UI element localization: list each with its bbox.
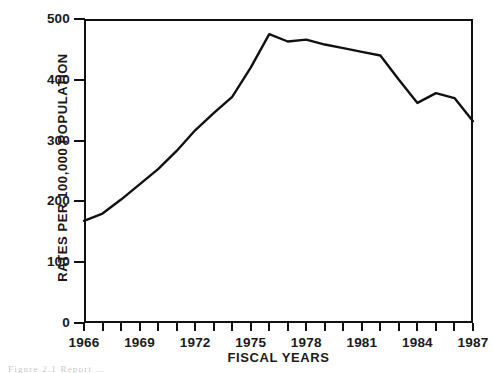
x-axis-tick-label: 1966 [54,336,114,350]
x-axis-tick [287,323,289,331]
x-axis-tick [157,323,159,331]
x-axis-tick [268,323,270,331]
x-axis-tick [342,323,344,331]
x-axis-tick [83,323,85,331]
y-axis-tick-label: 0 [10,316,70,330]
series-polyline [84,34,473,221]
x-axis-tick-label: 1981 [332,336,392,350]
x-axis-tick [120,323,122,331]
x-axis-tick [176,323,178,331]
data-series-line [84,19,473,323]
x-axis-tick-label: 1978 [276,336,336,350]
x-axis-tick [379,323,381,331]
x-axis-tick-label: 1975 [221,336,281,350]
x-axis-tick-label: 1969 [110,336,170,350]
x-axis-tick [435,323,437,331]
figure-caption-cropped: Figure 2.1 Report ... [8,364,408,373]
x-axis-tick [453,323,455,331]
x-axis-tick [102,323,104,331]
x-axis-tick [305,323,307,331]
x-axis-tick-label: 1987 [443,336,493,350]
x-axis-tick [361,323,363,331]
x-axis-tick [213,323,215,331]
x-axis-tick-label: 1984 [387,336,447,350]
x-axis-tick [416,323,418,331]
x-axis-tick [139,323,141,331]
y-axis-title: RATES PER 100,000 POPULATION [55,18,70,318]
x-axis-tick [194,323,196,331]
x-axis-tick-label: 1972 [165,336,225,350]
x-axis-title: FISCAL YEARS [84,350,473,365]
x-axis-tick [472,323,474,331]
x-axis-tick [324,323,326,331]
x-axis-tick [231,323,233,331]
x-axis-tick [398,323,400,331]
x-axis-tick [250,323,252,331]
